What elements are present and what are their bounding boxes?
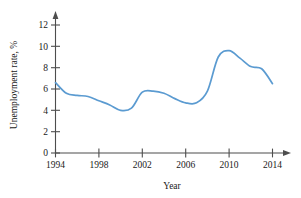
- y-tick-label-2: 2: [43, 127, 48, 137]
- y-tick-label-4: 4: [43, 106, 48, 116]
- y-tick-label-0: 0: [43, 148, 48, 158]
- y-tick-label-6: 6: [43, 84, 48, 94]
- unemployment-rate-chart: 0 2 4 6 8 10 12 Unemployment rate, %: [0, 0, 301, 198]
- x-axis-arrow-icon: [283, 150, 291, 156]
- y-axis-arrow-icon: [53, 11, 59, 19]
- unemployment-rate-line: [56, 51, 273, 111]
- x-tick-label-2014: 2014: [263, 160, 282, 170]
- x-axis-tick-labels: 1994 1998 2002 2006 2010 2014: [46, 160, 282, 170]
- x-tick-label-1994: 1994: [46, 160, 65, 170]
- y-axis-title: Unemployment rate, %: [9, 41, 19, 129]
- x-axis-group: 1994 1998 2002 2006 2010 2014 Year: [46, 149, 291, 191]
- x-tick-label-2006: 2006: [176, 160, 195, 170]
- y-tick-label-8: 8: [43, 63, 48, 73]
- x-tick-label-2002: 2002: [133, 160, 152, 170]
- chart-plot-area: 0 2 4 6 8 10 12 Unemployment rate, %: [0, 0, 301, 198]
- x-tick-label-2010: 2010: [220, 160, 239, 170]
- y-tick-label-10: 10: [39, 42, 49, 52]
- y-axis-tick-labels: 0 2 4 6 8 10 12: [39, 20, 49, 158]
- x-tick-label-1998: 1998: [89, 160, 108, 170]
- y-axis-group: 0 2 4 6 8 10 12 Unemployment rate, %: [9, 11, 60, 158]
- x-axis-title: Year: [163, 181, 181, 191]
- y-tick-label-12: 12: [39, 20, 49, 30]
